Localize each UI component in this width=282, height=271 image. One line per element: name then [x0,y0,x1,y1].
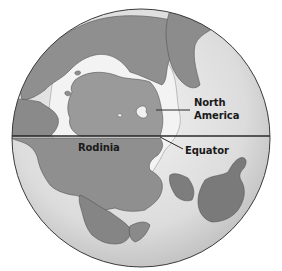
landmass-rodinia-core [68,72,163,136]
north-america-label-line2: America [194,110,239,122]
north-america-label-line1: North [194,97,226,109]
globe-illustration [0,0,282,271]
rodinia-label: Rodinia [78,142,120,154]
equator-label: Equator [185,145,229,157]
globe-figure: North America Rodinia Equator [0,0,282,271]
island [75,71,81,75]
island [65,91,71,96]
